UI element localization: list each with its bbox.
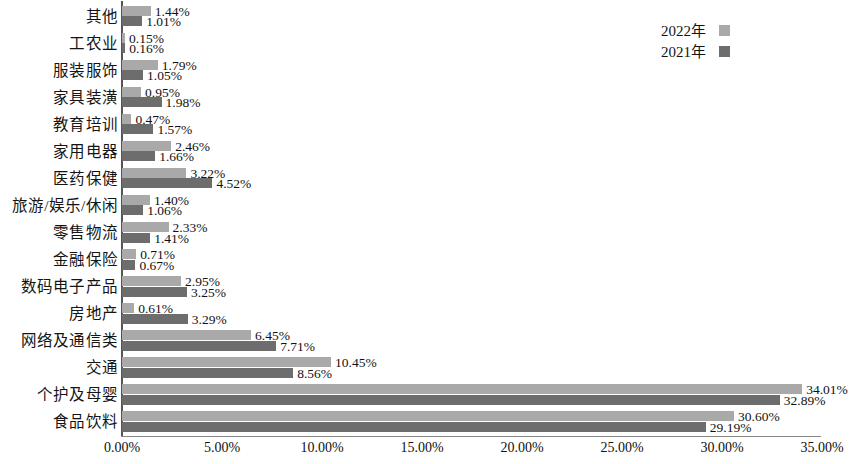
x-tick-label: 5.00%	[177, 441, 267, 455]
x-tick-label: 30.00%	[677, 441, 767, 455]
category-label: 家具装潢	[0, 90, 118, 106]
bar-value-label: 1.05%	[147, 69, 182, 83]
bar-value-label: 10.45%	[335, 356, 377, 370]
category-label: 教育培训	[0, 117, 118, 133]
category-label: 个护及母婴	[0, 387, 118, 403]
bar-2021	[122, 287, 187, 297]
bar-2022	[122, 87, 141, 97]
chart-row: 家用电器2.46%1.66%	[0, 138, 821, 165]
chart-row: 旅游/娱乐/休闲1.40%1.06%	[0, 192, 821, 219]
bar-2021	[122, 368, 293, 378]
bar-2021	[122, 205, 143, 215]
bar-value-label: 0.16%	[129, 42, 164, 56]
legend-swatch-2021	[719, 46, 730, 57]
bar-value-label: 0.67%	[139, 259, 174, 273]
bar-value-label: 1.57%	[157, 123, 192, 137]
bar-2021	[122, 233, 150, 243]
x-tick-label: 35.00%	[777, 441, 852, 455]
category-label: 医药保健	[0, 171, 118, 187]
chart-row: 家具装潢0.95%1.98%	[0, 84, 821, 111]
bar-2022	[122, 276, 181, 286]
chart-row: 教育培训0.47%1.57%	[0, 111, 821, 138]
bar-2022	[122, 303, 134, 313]
bar-2021	[122, 395, 780, 405]
category-label: 金融保险	[0, 252, 118, 268]
x-axis-line	[121, 436, 821, 437]
chart-row: 房地产0.61%3.29%	[0, 301, 821, 328]
bar-2022	[122, 249, 136, 259]
bar-value-label: 29.19%	[710, 421, 752, 435]
x-tick-label: 10.00%	[277, 441, 367, 455]
category-label: 服装服饰	[0, 63, 118, 79]
bar-2022	[122, 33, 125, 43]
bar-2022	[122, 195, 150, 205]
legend-item-2021[interactable]: 2021年	[640, 43, 730, 64]
bar-value-label: 3.29%	[192, 313, 227, 327]
bar-value-label: 1.06%	[147, 204, 182, 218]
bar-2021	[122, 178, 212, 188]
category-label: 食品饮料	[0, 414, 118, 430]
x-tick-label: 15.00%	[377, 441, 467, 455]
bar-value-label: 4.52%	[216, 177, 251, 191]
bar-value-label: 1.41%	[154, 232, 189, 246]
bar-2021	[122, 314, 188, 324]
category-label: 零售物流	[0, 225, 118, 241]
bar-2021	[122, 124, 153, 134]
bar-2022	[122, 384, 802, 394]
bar-2021	[122, 70, 143, 80]
bar-value-label: 1.66%	[159, 150, 194, 164]
category-label: 家用电器	[0, 144, 118, 160]
chart-row: 金融保险0.71%0.67%	[0, 247, 821, 274]
bar-2021	[122, 97, 162, 107]
chart-row: 数码电子产品2.95%3.25%	[0, 274, 821, 301]
bar-value-label: 8.56%	[297, 367, 332, 381]
bar-2021	[122, 43, 125, 53]
bar-2022	[122, 114, 131, 124]
x-tick-label: 0.00%	[77, 441, 167, 455]
category-label: 房地产	[0, 306, 118, 322]
bar-2021	[122, 151, 155, 161]
bar-2021	[122, 260, 135, 270]
chart-row: 食品饮料30.60%29.19%	[0, 409, 821, 436]
x-tick-label: 25.00%	[577, 441, 667, 455]
bar-value-label: 7.71%	[280, 340, 315, 354]
bar-value-label: 32.89%	[784, 394, 826, 408]
legend-label-2022: 2022年	[661, 24, 706, 39]
category-label: 旅游/娱乐/休闲	[0, 198, 118, 214]
legend-item-2022[interactable]: 2022年	[640, 22, 730, 43]
chart-row: 医药保健3.22%4.52%	[0, 165, 821, 192]
bar-2022	[122, 330, 251, 340]
chart-legend: 2022年 2021年	[640, 22, 730, 64]
category-label: 网络及通信类	[0, 333, 118, 349]
chart-row: 交通10.45%8.56%	[0, 355, 821, 382]
bar-value-label: 3.25%	[191, 286, 226, 300]
x-tick-label: 20.00%	[477, 441, 567, 455]
legend-label-2021: 2021年	[661, 45, 706, 60]
chart-row: 零售物流2.33%1.41%	[0, 220, 821, 247]
bar-2022	[122, 168, 186, 178]
bar-2021	[122, 422, 706, 432]
bar-value-label: 1.01%	[146, 15, 181, 29]
bar-2021	[122, 341, 276, 351]
chart-row: 个护及母婴34.01%32.89%	[0, 382, 821, 409]
legend-swatch-2022	[719, 25, 730, 36]
category-label: 数码电子产品	[0, 279, 118, 295]
bar-value-label: 1.98%	[166, 96, 201, 110]
category-label: 交通	[0, 360, 118, 376]
bar-2021	[122, 16, 142, 26]
category-label: 其他	[0, 9, 118, 25]
bar-2022	[122, 411, 734, 421]
category-label: 工农业	[0, 36, 118, 52]
chart-row: 网络及通信类6.45%7.71%	[0, 328, 821, 355]
